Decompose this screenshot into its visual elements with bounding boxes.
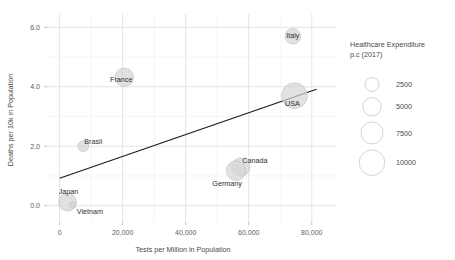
x-tick-label: 60,000	[238, 229, 260, 236]
y-axis-title: Deaths per 10k in Population	[6, 74, 15, 166]
x-tick-label: 40,000	[175, 229, 197, 236]
x-tick-label: 20,000	[112, 229, 134, 236]
legend-entry-label: 7500	[396, 129, 412, 138]
data-point-label: USA	[285, 99, 300, 108]
x-tick-label: 0	[58, 229, 62, 236]
x-tick-label: 80,000	[301, 229, 323, 236]
bubble-chart-figure: ItalyUSAFranceBrasilCanadaGermanyJapanVi…	[0, 0, 455, 260]
legend-title-line1: Healthcare Expenditure	[350, 40, 425, 49]
data-point-label: Italy	[286, 31, 300, 40]
data-point-label: Vietnam	[77, 207, 103, 216]
data-point-label: Germany	[212, 179, 242, 188]
data-point-label: Canada	[242, 156, 267, 165]
data-point-label: France	[110, 75, 132, 84]
legend-entry-label: 5000	[396, 102, 412, 111]
legend-title-line2: p.c (2017)	[350, 50, 382, 59]
chart-background	[0, 0, 455, 260]
data-point-label: Brasil	[84, 137, 102, 146]
data-point-bubble	[70, 202, 76, 208]
y-tick-label: 4.0	[30, 83, 40, 90]
legend-entry-label: 10000	[396, 158, 416, 167]
x-axis-title: Tests per Million in Population	[135, 245, 230, 254]
data-point-label: Japan	[59, 187, 79, 196]
data-point-bubble	[226, 161, 246, 181]
y-tick-label: 0.0	[30, 202, 40, 209]
y-tick-label: 6.0	[30, 24, 40, 31]
legend-entry-label: 2500	[396, 80, 412, 89]
y-tick-label: 2.0	[30, 143, 40, 150]
chart-canvas: ItalyUSAFranceBrasilCanadaGermanyJapanVi…	[0, 0, 455, 260]
